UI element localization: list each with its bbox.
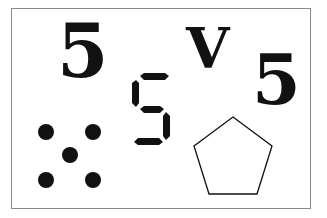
dice-five-pips-icon xyxy=(38,124,101,188)
pip xyxy=(62,147,78,163)
pip xyxy=(38,124,54,140)
segment-lower-right xyxy=(163,112,170,140)
figure-shapes xyxy=(0,0,327,218)
segment-middle xyxy=(140,106,164,113)
segment-top xyxy=(140,73,169,80)
pip xyxy=(38,172,54,188)
segment-upper-left xyxy=(132,80,139,107)
pip xyxy=(85,172,101,188)
seven-segment-five-icon xyxy=(132,73,170,145)
segment-bottom xyxy=(134,138,163,145)
pentagon-icon xyxy=(194,117,272,194)
pip xyxy=(85,124,101,140)
